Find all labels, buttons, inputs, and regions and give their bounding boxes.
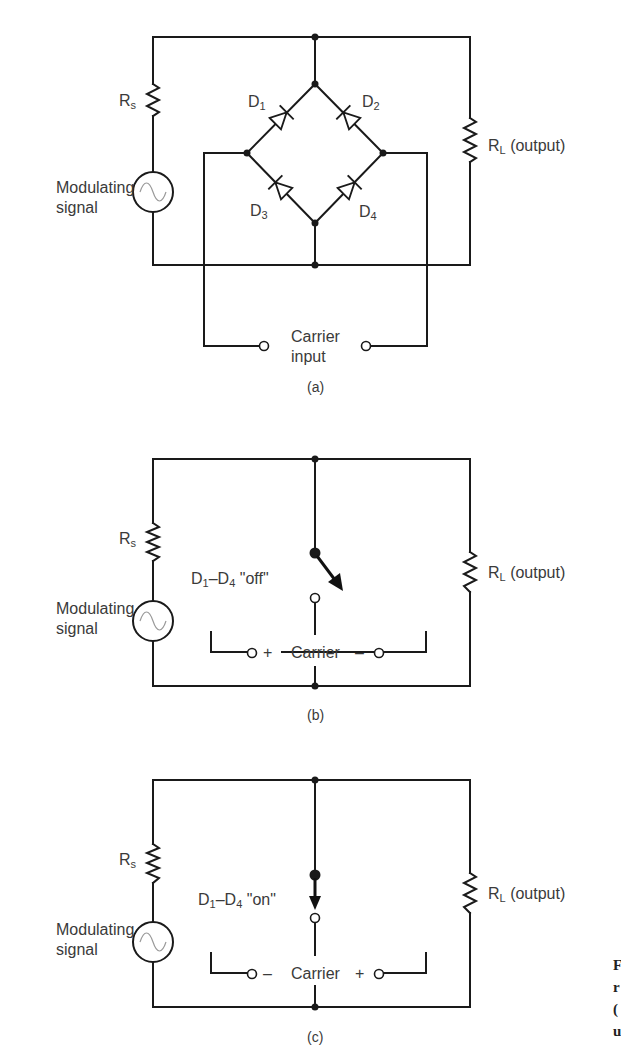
svg-text:F: F [613, 957, 621, 973]
modulating-signal-label-2: signal [56, 199, 98, 216]
carrier-plus-terminal-icon [248, 649, 257, 658]
rs-label: Rs [119, 851, 137, 870]
modulating-signal-label: Modulating [56, 179, 134, 196]
panel-c-rs-resistor-icon [147, 844, 159, 883]
switch-contact-icon [311, 594, 320, 603]
diodes-off-label: D1–D4 "off" [191, 570, 269, 589]
panel-a-diode-bridge-circuit: Rs Modulating signal RL (output) D1 D2 D… [56, 34, 565, 396]
carrier-terminal-left-icon [260, 342, 269, 351]
carrier-input-label-2: input [291, 348, 326, 365]
rs-label: Rs [119, 530, 137, 549]
balanced-ring-modulator-figure: Rs Modulating signal RL (output) D1 D2 D… [0, 0, 621, 1049]
carrier-plus-sign: + [355, 965, 364, 982]
caption-a: (a) [307, 379, 324, 395]
rl-output-label: RL (output) [488, 885, 565, 904]
carrier-input-label: Carrier [291, 328, 341, 345]
modulating-signal-label: Modulating [56, 600, 134, 617]
rs-label: Rs [119, 92, 137, 111]
caption-b: (b) [307, 707, 324, 723]
modulating-signal-label: Modulating [56, 921, 134, 938]
d1-label: D1 [248, 93, 266, 112]
svg-text:r: r [613, 979, 620, 995]
svg-text:(: ( [613, 1001, 618, 1018]
margin-caption-fragment: F r ( u [613, 957, 621, 1039]
carrier-label: Carrier [291, 965, 341, 982]
carrier-minus-sign: – [355, 644, 364, 661]
panel-b-rs-resistor-icon [147, 523, 159, 561]
d3-label: D3 [250, 202, 268, 221]
modulating-signal-label-2: signal [56, 620, 98, 637]
panel-a-rs-resistor-icon [147, 84, 159, 116]
switch-arrowhead-icon [309, 896, 321, 910]
switch-arm-open-icon [317, 556, 335, 580]
panel-b-diodes-off-circuit: Rs Modulating signal RL (output) D1–D4 "… [56, 456, 565, 724]
carrier-minus-terminal-icon [248, 970, 257, 979]
d4-label: D4 [359, 203, 377, 222]
d2-label: D2 [362, 93, 380, 112]
carrier-minus-terminal-icon [375, 649, 384, 658]
carrier-minus-sign: – [263, 965, 272, 982]
carrier-plus-terminal-icon [375, 970, 384, 979]
carrier-label: Carrier [291, 644, 341, 661]
rl-output-label: RL (output) [488, 137, 565, 156]
panel-b-rl-resistor-icon [464, 552, 476, 592]
carrier-plus-sign: + [263, 644, 272, 661]
caption-c: (c) [307, 1029, 323, 1045]
diodes-on-label: D1–D4 "on" [198, 891, 276, 910]
panel-a-rl-resistor-icon [464, 118, 476, 162]
switch-contact-icon [311, 914, 320, 923]
rl-output-label: RL (output) [488, 564, 565, 583]
modulating-signal-label-2: signal [56, 941, 98, 958]
panel-a-outer-loop [153, 37, 470, 265]
panel-c-diodes-on-circuit: Rs Modulating signal RL (output) D1–D4 "… [56, 777, 565, 1046]
carrier-terminal-right-icon [362, 342, 371, 351]
panel-c-rl-resistor-icon [464, 873, 476, 913]
svg-text:u: u [613, 1023, 621, 1039]
